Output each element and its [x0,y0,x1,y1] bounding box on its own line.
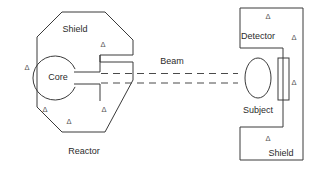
label-shield-right: Shield [268,148,293,158]
subject-body [245,58,271,98]
reactor-beam-detector-figure: Shield Core Reactor Beam Detector Subjec… [0,0,310,172]
delta-marker-icon: Δ [66,117,71,126]
label-reactor: Reactor [68,146,100,156]
delta-marker-icon: Δ [101,105,106,114]
delta-marker-icon: Δ [265,134,270,143]
delta-marker-icon: Δ [291,33,296,42]
delta-marker-icon: Δ [24,63,29,72]
delta-marker-icon: Δ [265,12,270,21]
label-shield-left: Shield [62,24,87,34]
label-beam: Beam [160,56,184,66]
delta-marker-icon: Δ [291,78,296,87]
delta-marker-icon: Δ [42,105,47,114]
label-core: Core [48,72,68,82]
label-subject: Subject [243,105,274,115]
label-detector: Detector [241,31,275,41]
delta-marker-icon: Δ [100,40,105,49]
schematic-diagram: Shield Core Reactor Beam Detector Subjec… [0,0,310,172]
